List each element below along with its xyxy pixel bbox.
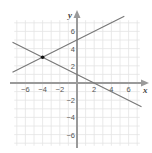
axes: x y [10, 10, 149, 148]
x-tick-label: −2 [56, 85, 65, 94]
x-tick-label: −4 [38, 85, 47, 94]
x-axis-label: x [142, 85, 148, 95]
x-tick-label: 6 [127, 85, 131, 94]
coordinate-graph: x y −6−4−2246642−2−4−6 [0, 0, 152, 153]
intersection-point [41, 55, 45, 59]
y-tick-label: 2 [71, 62, 75, 71]
x-tick-label: −6 [21, 85, 30, 94]
y-tick-label: 6 [71, 27, 75, 36]
y-tick-label: −2 [66, 96, 75, 105]
y-axis-arrow-icon [74, 10, 81, 18]
y-tick-label: 4 [71, 45, 75, 54]
plot-points [41, 55, 45, 59]
x-tick-label: 2 [92, 85, 96, 94]
y-axis-label: y [67, 10, 73, 20]
y-tick-label: −6 [66, 131, 75, 140]
y-tick-label: −4 [66, 113, 75, 122]
